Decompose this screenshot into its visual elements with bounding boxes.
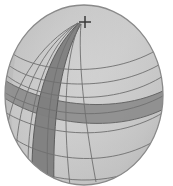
sphere-figure [0, 0, 173, 186]
figure-root [0, 0, 173, 186]
